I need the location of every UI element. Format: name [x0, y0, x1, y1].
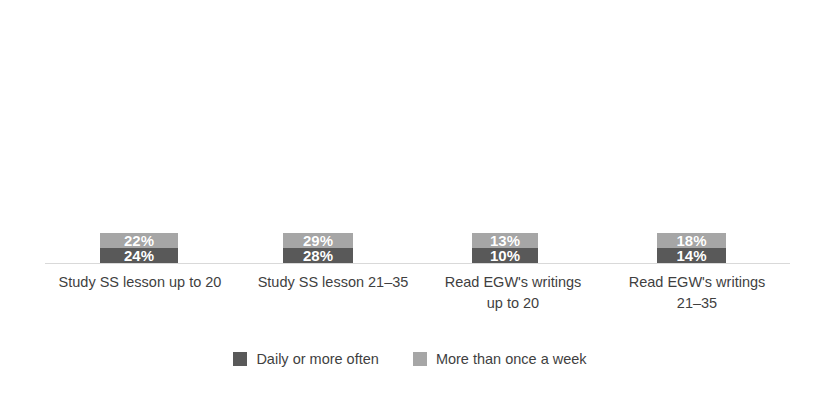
bar-segment-value-label: 13% — [490, 233, 520, 248]
bar-stack: 29%28% — [283, 262, 353, 263]
bar-segment: 18% — [657, 233, 726, 248]
bar-stack: 13%10% — [472, 262, 538, 263]
category-axis-label: Read EGW's writings up to 20 — [428, 272, 598, 314]
bar-stack: 18%14% — [657, 262, 726, 263]
bar-segment-value-label: 29% — [303, 233, 333, 248]
bar-segment: 24% — [100, 248, 178, 263]
legend-item[interactable]: More than once a week — [413, 352, 587, 367]
bar-segment-value-label: 22% — [124, 233, 154, 248]
chart-legend: Daily or more oftenMore than once a week — [0, 352, 820, 367]
bar-segment: 10% — [472, 248, 538, 263]
bar-segment: 13% — [472, 233, 538, 248]
stacked-bar-chart: 22%24%29%28%13%10%18%14% Study SS lesson… — [0, 0, 820, 393]
bar-stack: 22%24% — [100, 262, 178, 263]
bar-segment: 28% — [283, 248, 353, 263]
bar-segment-value-label: 18% — [676, 233, 706, 248]
bar-segment-value-label: 28% — [303, 248, 333, 263]
legend-swatch-weekly — [413, 352, 427, 366]
bar-segment-value-label: 14% — [676, 248, 706, 263]
legend-item-label: More than once a week — [436, 352, 587, 367]
legend-item-label: Daily or more often — [256, 352, 379, 367]
category-axis-label: Read EGW's writings 21–35 — [612, 272, 782, 314]
bar-segment: 14% — [657, 248, 726, 263]
bar-segment: 22% — [100, 233, 178, 248]
plot-area: 22%24%29%28%13%10%18%14% — [0, 0, 820, 264]
bar-segment-value-label: 24% — [124, 248, 154, 263]
bar-segment: 29% — [283, 233, 353, 248]
legend-item[interactable]: Daily or more often — [233, 352, 379, 367]
legend-swatch-daily — [233, 352, 247, 366]
category-axis-label: Study SS lesson up to 20 — [40, 272, 240, 293]
bar-segment-value-label: 10% — [490, 248, 520, 263]
category-axis-label: Study SS lesson 21–35 — [243, 272, 423, 293]
